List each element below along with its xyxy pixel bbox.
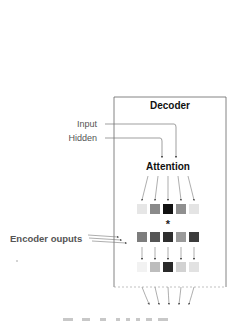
attention-label: Attention [146, 161, 190, 172]
output-arrow [155, 287, 159, 304]
attention-weight-cell [137, 204, 147, 214]
attention-arrow [142, 176, 148, 200]
encoder-outputs-row [137, 232, 199, 242]
decoder-title: Decoder [150, 100, 190, 111]
weighted-output-cell [189, 262, 199, 272]
encoder-input-arrows [88, 235, 126, 243]
weighted-output-cell [163, 262, 173, 272]
attention-weight-cell [176, 204, 186, 214]
output-arrow [168, 287, 169, 304]
encoder-output-cell [176, 232, 186, 242]
output-arrows [142, 287, 194, 304]
weighted-output-cell [137, 262, 147, 272]
attention-arrow [155, 176, 158, 200]
input-arrow [105, 124, 176, 157]
multiply-symbol: * [166, 218, 171, 230]
output-arrow [142, 287, 149, 304]
hidden-arrow [105, 138, 162, 157]
weighted-output-cell [150, 262, 160, 272]
output-arrow [189, 287, 194, 304]
weighted-outputs-row [137, 262, 199, 272]
weighting-arrows [142, 247, 194, 259]
output-arrow [179, 287, 181, 304]
encoder-output-cell [163, 232, 173, 242]
hidden-label: Hidden [68, 133, 97, 143]
attention-arrow [188, 176, 194, 200]
attention-weights-row [137, 204, 199, 214]
attention-output-arrows [142, 176, 194, 200]
input-label: Input [77, 119, 98, 129]
attention-weight-cell [163, 204, 173, 214]
attention-decoder-diagram: Decoder Input Hidden Attention * Encoder… [0, 0, 238, 321]
encoder-output-cell [150, 232, 160, 242]
attention-arrow [178, 176, 181, 200]
encoder-outputs-label: Encoder ouputs [10, 233, 82, 244]
decoder-box [114, 97, 226, 287]
attention-weight-cell [150, 204, 160, 214]
encoder-output-cell [189, 232, 199, 242]
stray-dot [16, 260, 17, 261]
attention-weight-cell [189, 204, 199, 214]
weighted-output-cell [176, 262, 186, 272]
encoder-output-cell [137, 232, 147, 242]
